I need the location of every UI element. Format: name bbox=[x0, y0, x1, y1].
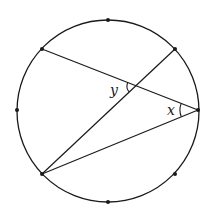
point-bottom bbox=[106, 200, 110, 204]
angle-arc-y bbox=[127, 83, 129, 93]
point-lower-left bbox=[40, 172, 44, 176]
point-top bbox=[106, 18, 110, 22]
point-left bbox=[15, 108, 19, 112]
circle-geometry-diagram: y x bbox=[0, 0, 211, 211]
angle-arc-x bbox=[180, 103, 181, 116]
chord-lower-left-to-upper-right bbox=[42, 49, 175, 174]
point-upper-right bbox=[173, 47, 177, 51]
point-upper-left bbox=[40, 47, 44, 51]
chord-lower-left-to-right bbox=[42, 110, 198, 174]
point-lower-right bbox=[173, 172, 177, 176]
angle-label-y: y bbox=[109, 82, 119, 98]
point-right bbox=[196, 108, 200, 112]
angle-label-x: x bbox=[167, 102, 175, 118]
